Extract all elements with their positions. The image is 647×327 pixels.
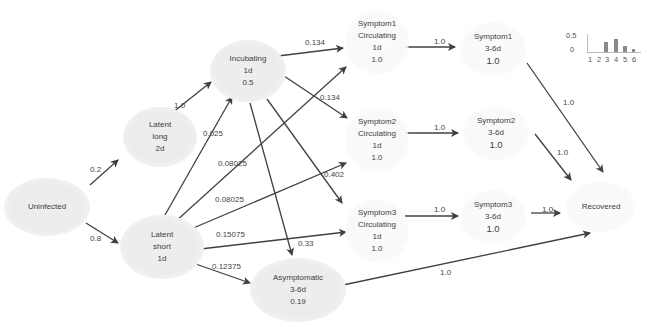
node-symptom1-circ-prob: 1.0 [371, 54, 382, 66]
node-asymptomatic-title: Asymptomatic [273, 272, 323, 284]
edge-label-symptom1-circ-36: 1.0 [434, 37, 445, 46]
node-symptom2-circ-duration: 1d [373, 140, 382, 152]
node-symptom3-circ-prob: 1.0 [371, 243, 382, 255]
mini-chart-xtick-1: 1 [588, 55, 592, 64]
mini-chart-y-axis [587, 34, 588, 52]
edge-label-uninfected-latent-long: 0.2 [90, 165, 101, 174]
node-symptom2-3-6d: Symptom2 3-6d 1.0 [463, 106, 529, 160]
node-recovered: Recovered [566, 182, 636, 232]
node-symptom2-36-duration: 3-6d [488, 127, 504, 139]
node-symptom1-36-prob: 1.0 [486, 55, 499, 67]
mini-chart-bar-3 [604, 42, 608, 52]
node-symptom2-36-title: Symptom2 [477, 115, 515, 127]
mini-chart-bar-4 [614, 39, 618, 52]
node-symptom1-circ-title: Symptom1 [358, 18, 396, 30]
node-latent-short-line1: Latent [151, 229, 173, 241]
node-symptom1-36-title: Symptom1 [474, 31, 512, 43]
node-uninfected-label: Uninfected [28, 201, 66, 213]
edge-label-incubating-asymptomatic: 0.33 [298, 239, 314, 248]
node-symptom3-circ-duration: 1d [373, 231, 382, 243]
mini-chart-bar-6 [632, 49, 635, 52]
node-symptom2-circ-title: Symptom2 [358, 116, 396, 128]
node-symptom3-36-prob: 1.0 [486, 223, 499, 235]
edge-label-asymptomatic-recovered: 1.0 [440, 268, 451, 277]
node-latent-short-duration: 1d [158, 253, 167, 265]
edge-label-latent-short-symptom3-circ: 0.15075 [216, 230, 245, 239]
edge-label-symptom2-circ-36: 1.0 [434, 123, 445, 132]
edge-label-latent-short-asymptomatic: 0.12375 [212, 262, 241, 271]
mini-chart-xtick-5: 5 [623, 55, 627, 64]
mini-chart-xtick-3: 3 [605, 55, 609, 64]
node-symptom3-36-title: Symptom3 [474, 199, 512, 211]
edge-label-symptom2-36-recovered: 1.0 [557, 148, 568, 157]
node-symptom1-36-duration: 3-6d [485, 43, 501, 55]
edge-label-incubating-symptom1-circ: 0.134 [305, 38, 325, 47]
node-symptom3-circ-title: Symptom3 [358, 207, 396, 219]
edge-label-latent-long-incubating: 1.0 [174, 101, 185, 110]
node-uninfected: Uninfected [4, 178, 90, 236]
node-latent-short: Latent short 1d [120, 215, 204, 279]
edge-incubating-symptom3-circ [267, 99, 342, 203]
node-symptom3-circ-sub: Circulating [358, 219, 396, 231]
edge-label-incubating-symptom3-circ: 0.402 [324, 170, 344, 179]
mini-chart-x-axis [587, 52, 641, 53]
node-asymptomatic-prob: 0.19 [290, 296, 306, 308]
duration-mini-chart: 0.5 0 1 2 3 4 5 6 [566, 28, 646, 64]
mini-chart-bar-5 [623, 46, 627, 52]
edge-label-incubating-symptom2-circ: 0.134 [320, 93, 340, 102]
node-symptom3-36-duration: 3-6d [485, 211, 501, 223]
edge-latent-short-symptom2-circ [184, 163, 346, 232]
mini-chart-xtick-2: 2 [597, 55, 601, 64]
node-incubating-prob: 0.5 [242, 77, 253, 89]
edge-label-latent-short-symptom2-circ: 0.08025 [215, 195, 244, 204]
node-symptom1-circ-sub: Circulating [358, 30, 396, 42]
mini-chart-ytick-top: 0.5 [566, 31, 576, 40]
edge-label-symptom3-circ-36: 1.0 [434, 205, 445, 214]
node-symptom1-circulating: Symptom1 Circulating 1d 1.0 [345, 10, 409, 74]
node-symptom2-circulating: Symptom2 Circulating 1d 1.0 [345, 108, 409, 172]
node-latent-long: Latent long 2d [123, 107, 197, 167]
node-recovered-label: Recovered [582, 201, 621, 213]
node-symptom2-circ-sub: Circulating [358, 128, 396, 140]
edge-label-symptom1-36-recovered: 1.0 [563, 98, 574, 107]
mini-chart-xtick-6: 6 [632, 55, 636, 64]
node-symptom1-circ-duration: 1d [373, 42, 382, 54]
node-latent-long-duration: 2d [156, 143, 165, 155]
mini-chart-xtick-4: 4 [614, 55, 618, 64]
mini-chart-ytick-bottom: 0 [570, 45, 574, 54]
node-latent-short-line2: short [153, 241, 171, 253]
edge-label-symptom3-36-recovered: 1.0 [542, 205, 553, 214]
node-incubating-title: Incubating [230, 53, 267, 65]
node-asymptomatic-duration: 3-6d [290, 284, 306, 296]
edge-symptom2-36-recovered [535, 134, 571, 180]
node-symptom2-circ-prob: 1.0 [371, 152, 382, 164]
edge-label-uninfected-latent-short: 0.8 [90, 234, 101, 243]
node-asymptomatic: Asymptomatic 3-6d 0.19 [250, 258, 346, 322]
edge-label-latent-short-incubating: 0.025 [203, 129, 223, 138]
node-incubating: Incubating 1d 0.5 [210, 40, 286, 102]
node-symptom2-36-prob: 1.0 [489, 139, 502, 151]
edge-incubating-symptom1-circ [278, 48, 343, 56]
node-symptom3-circulating: Symptom3 Circulating 1d 1.0 [345, 199, 409, 263]
node-latent-long-line2: long [152, 131, 167, 143]
edge-label-latent-short-symptom1-circ: 0.08025 [218, 159, 247, 168]
node-latent-long-line1: Latent [149, 119, 171, 131]
node-symptom3-3-6d: Symptom3 3-6d 1.0 [460, 190, 526, 244]
node-incubating-duration: 1d [244, 65, 253, 77]
node-symptom1-3-6d: Symptom1 3-6d 1.0 [460, 22, 526, 76]
